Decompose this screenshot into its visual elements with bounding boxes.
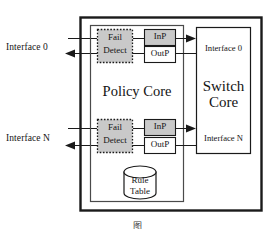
external-interface-label-0: Interface 0 — [6, 43, 68, 53]
switch-core-title-line1: Switch — [197, 79, 250, 94]
outp-label-n: OutP — [144, 140, 176, 149]
figure-canvas: Interface 0 Interface N Fail Detect Fail… — [0, 0, 274, 229]
fail-detect-label-n-line2: Detect — [97, 136, 133, 145]
inp-label-0: InP — [144, 32, 176, 41]
fail-detect-label-0-line1: Fail — [97, 33, 133, 42]
switch-core-interface-label-0: Interface 0 — [197, 44, 250, 53]
policy-core-title: Policy Core — [91, 84, 183, 99]
switch-core-title-line2: Core — [197, 95, 250, 110]
figure-caption: 图 — [0, 219, 274, 229]
fail-detect-label-n-line1: Fail — [97, 123, 133, 132]
fail-detect-label-0-line2: Detect — [97, 46, 133, 55]
external-interface-label-n: Interface N — [6, 134, 70, 144]
rule-table-label-line1: Rule — [124, 176, 156, 186]
switch-core-interface-label-n: Interface N — [197, 134, 250, 143]
arrowhead-inp-to-switch-bottom — [186, 125, 196, 133]
arrowhead-inp-to-switch-top — [186, 35, 196, 43]
rule-table-label-line2: Table — [124, 187, 156, 197]
inp-label-n: InP — [144, 122, 176, 131]
outp-label-0: OutP — [144, 49, 176, 58]
